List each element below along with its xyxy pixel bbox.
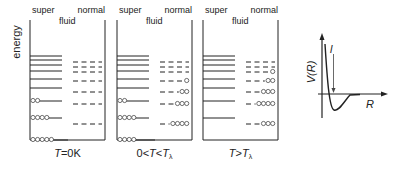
particle	[261, 101, 265, 105]
temperature-caption: T>Tλ	[229, 147, 253, 160]
particle	[271, 69, 275, 73]
particle	[127, 115, 131, 119]
particle	[127, 137, 131, 141]
particle	[132, 137, 136, 141]
particle	[36, 115, 40, 119]
panel-2: supernormalfluid0<T<Tλ	[117, 5, 192, 160]
particle	[175, 101, 179, 105]
particle	[185, 121, 189, 125]
particle	[266, 121, 270, 125]
particle	[180, 101, 184, 105]
particle	[118, 137, 122, 141]
temperature-caption: 0<T<Tλ	[137, 147, 173, 160]
particle	[175, 121, 179, 125]
super-label: super	[119, 5, 142, 15]
l-arrow-head-icon	[332, 88, 336, 93]
r-axis-label: R	[366, 98, 374, 110]
panel-1: supernormalfluidT=0K	[30, 5, 105, 159]
particle	[185, 101, 189, 105]
particle	[123, 115, 127, 119]
potential-curve-plot: l V(R) R	[305, 33, 388, 118]
super-label: super	[32, 5, 55, 15]
particle	[132, 115, 136, 119]
particle	[31, 137, 35, 141]
particle	[257, 101, 261, 105]
particle	[171, 121, 175, 125]
particle	[49, 137, 53, 141]
particle	[45, 115, 49, 119]
particle	[31, 115, 35, 119]
particle	[123, 137, 127, 141]
particle	[40, 115, 44, 119]
v-axis-arrow-icon	[320, 33, 325, 40]
normal-label: normal	[164, 5, 192, 15]
particle	[261, 89, 265, 93]
particle	[185, 89, 189, 93]
particle	[266, 101, 270, 105]
r-axis-arrow-icon	[381, 92, 388, 97]
particle	[271, 121, 275, 125]
normal-label: normal	[77, 5, 105, 15]
fluid-label: fluid	[59, 16, 76, 26]
energy-axis-label: energy	[10, 25, 22, 59]
particle	[266, 78, 270, 82]
particle	[31, 98, 35, 102]
v-axis-label: V(R)	[305, 60, 317, 83]
particle	[271, 78, 275, 82]
particle	[271, 101, 275, 105]
particle	[45, 137, 49, 141]
super-label: super	[205, 5, 228, 15]
l-label: l	[330, 43, 333, 55]
particle	[180, 121, 184, 125]
particle	[118, 115, 122, 119]
particle	[40, 137, 44, 141]
particle	[271, 89, 275, 93]
particle	[185, 78, 189, 82]
particle	[36, 137, 40, 141]
particle	[180, 89, 184, 93]
panel-3: supernormalfluidT>Tλ	[203, 5, 278, 160]
particle	[266, 89, 270, 93]
fluid-label: fluid	[146, 16, 163, 26]
particle	[118, 98, 122, 102]
particle	[36, 98, 40, 102]
fluid-label: fluid	[232, 16, 249, 26]
particle	[261, 121, 265, 125]
temperature-caption: T=0K	[54, 147, 81, 159]
particle	[123, 98, 127, 102]
normal-label: normal	[250, 5, 278, 15]
panel-frame	[30, 20, 105, 140]
energy-level-diagram: energy supernormalfluidT=0Ksupernormalfl…	[0, 0, 402, 170]
